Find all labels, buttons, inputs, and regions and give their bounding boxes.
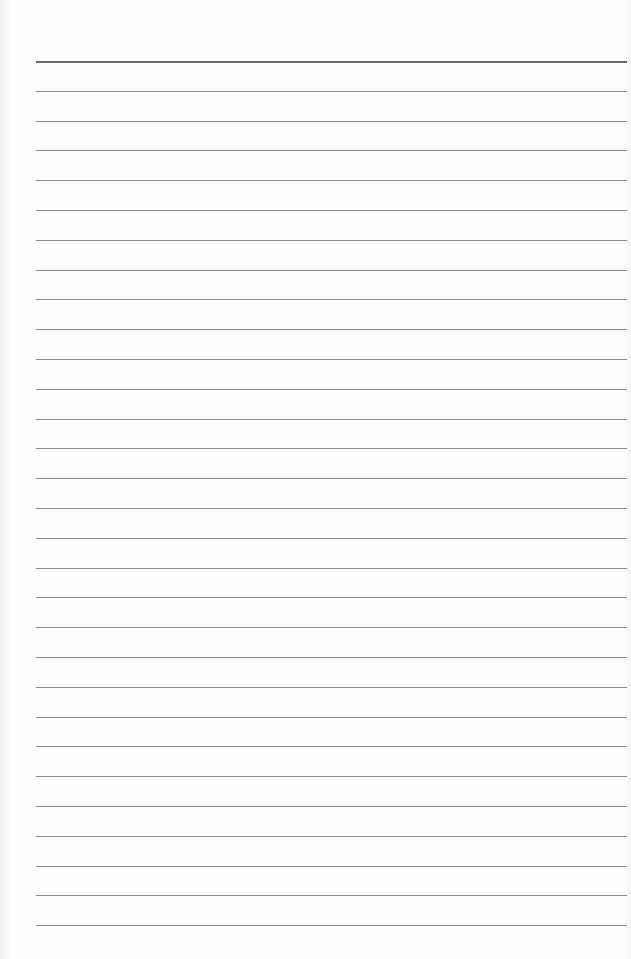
rule-line — [36, 836, 627, 837]
rule-line — [36, 538, 627, 539]
rule-line — [36, 776, 627, 777]
rule-line — [36, 746, 627, 747]
rule-line — [36, 687, 627, 688]
rule-line — [36, 299, 627, 300]
rule-line — [36, 448, 627, 449]
rule-line — [36, 925, 627, 926]
rule-line — [36, 806, 627, 807]
rule-line — [36, 627, 627, 628]
lined-paper-page — [0, 0, 631, 959]
rule-line — [36, 866, 627, 867]
rule-line — [36, 210, 627, 211]
rule-line — [36, 91, 627, 92]
rule-line — [36, 508, 627, 509]
rule-line — [36, 895, 627, 896]
rule-line — [36, 121, 627, 122]
rule-line — [36, 270, 627, 271]
rule-line — [36, 240, 627, 241]
rule-line — [36, 478, 627, 479]
rule-line — [36, 389, 627, 390]
rule-line — [36, 150, 627, 151]
rule-line — [36, 419, 627, 420]
rule-line — [36, 657, 627, 658]
rule-line — [36, 568, 627, 569]
header-rule-line — [36, 61, 627, 63]
rule-line — [36, 717, 627, 718]
rule-line — [36, 329, 627, 330]
rule-line — [36, 359, 627, 360]
rule-line — [36, 597, 627, 598]
rule-line — [36, 180, 627, 181]
